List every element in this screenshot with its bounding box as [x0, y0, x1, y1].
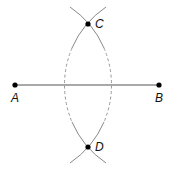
diagram-canvas: A B C D — [0, 0, 172, 172]
construction-svg: A B C D — [0, 0, 172, 172]
label-b: B — [155, 91, 163, 105]
point-c — [85, 21, 90, 26]
point-d — [85, 144, 90, 149]
point-b — [156, 82, 161, 87]
label-a: A — [10, 91, 19, 105]
point-a — [12, 82, 17, 87]
label-d: D — [95, 140, 104, 154]
label-c: C — [95, 17, 104, 31]
